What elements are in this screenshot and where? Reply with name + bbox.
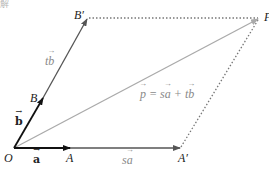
vector-label-p-equation: p = sa + tb — [140, 88, 194, 100]
equation-part: + t — [171, 87, 188, 101]
point-label-p: P — [264, 11, 269, 23]
parallelogram-vector-diagram: 解 O A A′ B B′ P a — [0, 0, 269, 171]
corner-text: 解 — [0, 0, 9, 10]
vector-label-tb: tb — [45, 55, 54, 67]
vector-b-symbol: b — [48, 55, 54, 67]
vector-label-sa: sa — [122, 154, 133, 166]
point-label-a-prime: A′ — [178, 152, 188, 164]
vector-p-symbol: p — [140, 88, 146, 100]
point-label-o: O — [4, 152, 13, 164]
diagram-svg — [0, 0, 269, 171]
vector-label-b: b — [15, 116, 23, 127]
point-label-b: B — [30, 92, 37, 104]
vector-b-symbol: b — [15, 116, 23, 127]
equation-part: = s — [146, 87, 165, 101]
vector-a-symbol: a — [33, 154, 40, 165]
vector-a-symbol: a — [127, 154, 133, 166]
point-label-a: A — [66, 152, 73, 164]
vector-label-a: a — [33, 154, 40, 165]
vector-b-symbol: b — [188, 88, 194, 100]
vector-a-symbol: a — [165, 88, 171, 100]
point-label-b-prime: B′ — [74, 9, 84, 21]
